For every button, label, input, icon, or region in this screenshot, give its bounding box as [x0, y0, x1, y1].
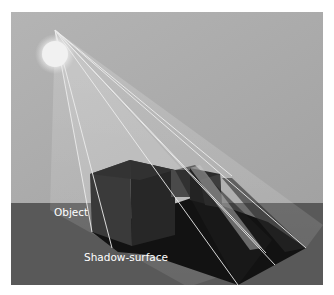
- light-bulb: [42, 41, 68, 67]
- light-source: [35, 34, 75, 74]
- shadow-surface-label: Shadow-surface: [84, 251, 168, 263]
- shadow-diagram: Object Shadow-surface: [0, 0, 334, 295]
- object-label: Object: [54, 206, 88, 218]
